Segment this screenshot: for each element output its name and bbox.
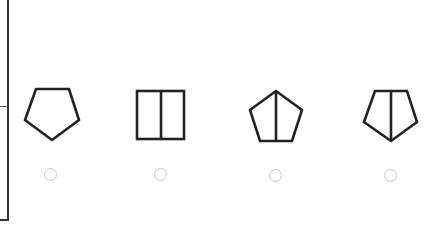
option-a-shape-pentagon-icon [22,86,82,144]
frame-divider [0,106,9,107]
option-d-radio[interactable] [384,169,397,182]
option-c-radio[interactable] [269,169,282,182]
option-d-shape-pentagon-divided-icon [361,88,423,146]
option-b-radio[interactable] [154,168,167,181]
option-c-shape-pentagon-divided-icon [247,88,307,146]
option-b-shape-divided-rectangle-icon [134,88,188,142]
left-frame-border [7,0,9,221]
option-a-radio[interactable] [44,168,57,181]
frame-bottom-border [0,219,9,221]
